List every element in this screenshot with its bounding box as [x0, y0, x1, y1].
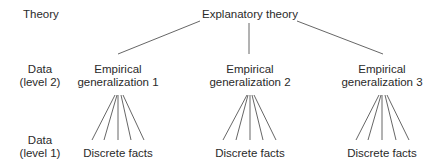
node-generalization-2-line2: generalization 2 — [195, 76, 305, 89]
node-generalization-2: Empirical generalization 2 — [195, 63, 305, 89]
node-generalization-1-line2: generalization 1 — [63, 76, 173, 89]
node-generalization-3: Empirical generalization 3 — [327, 63, 437, 89]
row-label-data-level1-line1: Data — [5, 134, 75, 147]
node-discrete-facts-1: Discrete facts — [63, 147, 173, 160]
edge-theory-gen3 — [297, 21, 383, 54]
node-generalization-1: Empirical generalization 1 — [63, 63, 173, 89]
node-generalization-3-line2: generalization 3 — [327, 76, 437, 89]
row-label-theory: Theory — [5, 8, 75, 21]
node-discrete-facts-2: Discrete facts — [195, 147, 305, 160]
node-explanatory-theory: Explanatory theory — [190, 8, 310, 21]
fan-gen2 — [223, 95, 276, 140]
node-generalization-1-line1: Empirical — [63, 63, 173, 76]
fan-gen3 — [356, 95, 409, 140]
node-generalization-3-line1: Empirical — [327, 63, 437, 76]
node-discrete-facts-3: Discrete facts — [327, 147, 437, 160]
edge-theory-gen1 — [118, 21, 200, 54]
node-generalization-2-line1: Empirical — [195, 63, 305, 76]
fan-gen1 — [92, 95, 144, 140]
